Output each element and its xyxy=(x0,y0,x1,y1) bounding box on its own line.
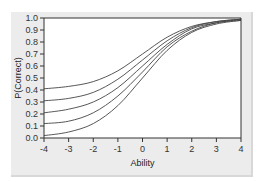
x-tick-label: -4 xyxy=(40,144,48,154)
y-tick-label: 0.2 xyxy=(25,109,38,119)
y-tick-label: 0.9 xyxy=(25,25,38,35)
x-tick-label: 0 xyxy=(140,144,145,154)
x-tick-label: -2 xyxy=(89,144,97,154)
y-tick-label: 0.6 xyxy=(25,61,38,71)
y-tick-label: 0.7 xyxy=(25,49,38,59)
y-tick-label: 0.4 xyxy=(25,85,38,95)
x-tick-label: -1 xyxy=(114,144,122,154)
y-tick-label: 1.0 xyxy=(25,13,38,23)
y-tick-label: 0.5 xyxy=(25,73,38,83)
x-tick-label: 1 xyxy=(165,144,170,154)
y-tick-label: 0.1 xyxy=(25,121,38,131)
icc-chart: 0.00.10.20.30.40.50.60.70.80.91.0 -4-3-2… xyxy=(0,0,263,182)
y-axis-ticks: 0.00.10.20.30.40.50.60.70.80.91.0 xyxy=(25,13,44,143)
x-axis-ticks: -4-3-2-101234 xyxy=(40,138,244,154)
y-tick-label: 0.0 xyxy=(25,133,38,143)
y-axis-title: P(Correct) xyxy=(13,57,23,99)
y-tick-label: 0.3 xyxy=(25,97,38,107)
x-tick-label: -3 xyxy=(65,144,73,154)
x-axis-title: Ability xyxy=(130,158,155,168)
x-tick-label: 3 xyxy=(214,144,219,154)
y-tick-label: 0.8 xyxy=(25,37,38,47)
x-tick-label: 4 xyxy=(238,144,243,154)
x-tick-label: 2 xyxy=(189,144,194,154)
